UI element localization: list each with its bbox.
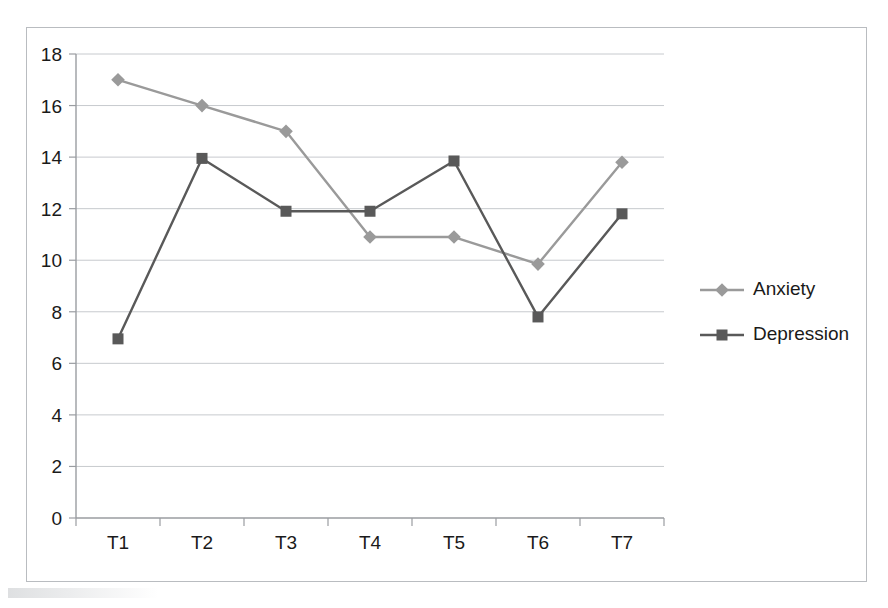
y-axis-tick-label: 6 bbox=[51, 353, 62, 374]
y-axis-tick-label: 16 bbox=[41, 96, 62, 117]
x-axis-tick-label: T7 bbox=[611, 532, 633, 553]
y-axis-tick-label: 8 bbox=[51, 302, 62, 323]
y-axis-tick-label: 2 bbox=[51, 456, 62, 477]
data-point-depression-t1 bbox=[113, 333, 124, 344]
gridlines bbox=[76, 54, 664, 466]
data-point-depression-t5 bbox=[449, 155, 460, 166]
y-axis-tick-label: 14 bbox=[41, 147, 63, 168]
x-axis-tick-label: T6 bbox=[527, 532, 549, 553]
y-axis-tick-label: 10 bbox=[41, 250, 62, 271]
line-chart: 024681012141618 T1T2T3T4T5T6T7 AnxietyDe… bbox=[0, 0, 888, 608]
data-point-anxiety-t2 bbox=[195, 99, 209, 113]
y-axis-ticks bbox=[69, 54, 76, 518]
data-point-depression-t7 bbox=[617, 208, 628, 219]
legend-label-anxiety: Anxiety bbox=[753, 278, 816, 299]
data-point-depression-t6 bbox=[533, 311, 544, 322]
legend-marker-depression bbox=[717, 330, 728, 341]
x-axis-tick-label: T3 bbox=[275, 532, 297, 553]
x-axis-tick-label: T4 bbox=[359, 532, 382, 553]
y-axis-tick-label: 4 bbox=[51, 405, 62, 426]
y-axis-tick-labels: 024681012141618 bbox=[41, 44, 63, 529]
chart-legend: AnxietyDepression bbox=[700, 278, 849, 344]
x-axis-tick-labels: T1T2T3T4T5T6T7 bbox=[107, 532, 633, 553]
x-axis-tick-label: T5 bbox=[443, 532, 465, 553]
x-axis-ticks bbox=[76, 518, 664, 526]
y-axis-tick-label: 18 bbox=[41, 44, 62, 65]
legend-marker-anxiety bbox=[715, 283, 729, 297]
data-point-depression-t3 bbox=[281, 206, 292, 217]
x-axis-tick-label: T1 bbox=[107, 532, 129, 553]
x-axis-tick-label: T2 bbox=[191, 532, 213, 553]
data-point-depression-t4 bbox=[365, 206, 376, 217]
data-point-depression-t2 bbox=[197, 153, 208, 164]
data-point-anxiety-t1 bbox=[111, 73, 125, 87]
legend-label-depression: Depression bbox=[753, 323, 849, 344]
y-axis-tick-label: 0 bbox=[51, 508, 62, 529]
data-point-anxiety-t5 bbox=[447, 230, 461, 244]
y-axis-tick-label: 12 bbox=[41, 199, 62, 220]
